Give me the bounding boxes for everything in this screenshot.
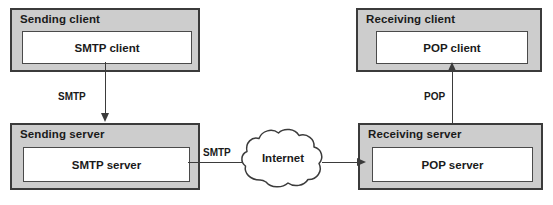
node-receiving-client-title: Receiving client (366, 13, 455, 25)
node-sending-client-inner-label: SMTP client (75, 42, 140, 54)
node-sending-server-inner: SMTP server (23, 147, 190, 182)
node-receiving-server: Receiving server POP server (358, 123, 543, 190)
node-receiving-client-inner: POP client (376, 31, 528, 64)
edge-arrowhead-server-to-client-pop (448, 62, 456, 71)
node-sending-server: Sending server SMTP server (10, 123, 200, 190)
node-sending-client-title: Sending client (20, 13, 100, 25)
edge-arrowhead-internet-to-receiving-server (357, 158, 366, 166)
node-sending-client-inner: SMTP client (22, 31, 192, 64)
node-sending-server-inner-label: SMTP server (72, 159, 141, 171)
node-receiving-server-inner-label: POP server (422, 159, 484, 171)
node-receiving-server-title: Receiving server (368, 128, 462, 140)
edge-label-server-to-client-pop: POP (424, 91, 445, 102)
node-sending-server-title: Sending server (20, 128, 105, 140)
edge-label-client-to-server-smtp: SMTP (58, 91, 86, 102)
edge-line-server-to-client-pop (452, 71, 453, 123)
internet-cloud-label: Internet (238, 152, 328, 164)
node-receiving-server-inner: POP server (372, 147, 533, 182)
node-receiving-client-inner-label: POP client (423, 42, 480, 54)
edge-arrowhead-client-to-server-smtp (101, 113, 109, 122)
edge-line-internet-to-receiving-server (322, 162, 358, 163)
edge-line-server-to-internet-smtp (188, 162, 243, 163)
email-protocol-diagram: Sending client SMTP client Receiving cli… (0, 0, 553, 205)
internet-cloud: Internet (238, 126, 328, 192)
edge-line-client-to-server-smtp (105, 62, 106, 114)
edge-label-server-to-internet-smtp: SMTP (203, 147, 231, 158)
